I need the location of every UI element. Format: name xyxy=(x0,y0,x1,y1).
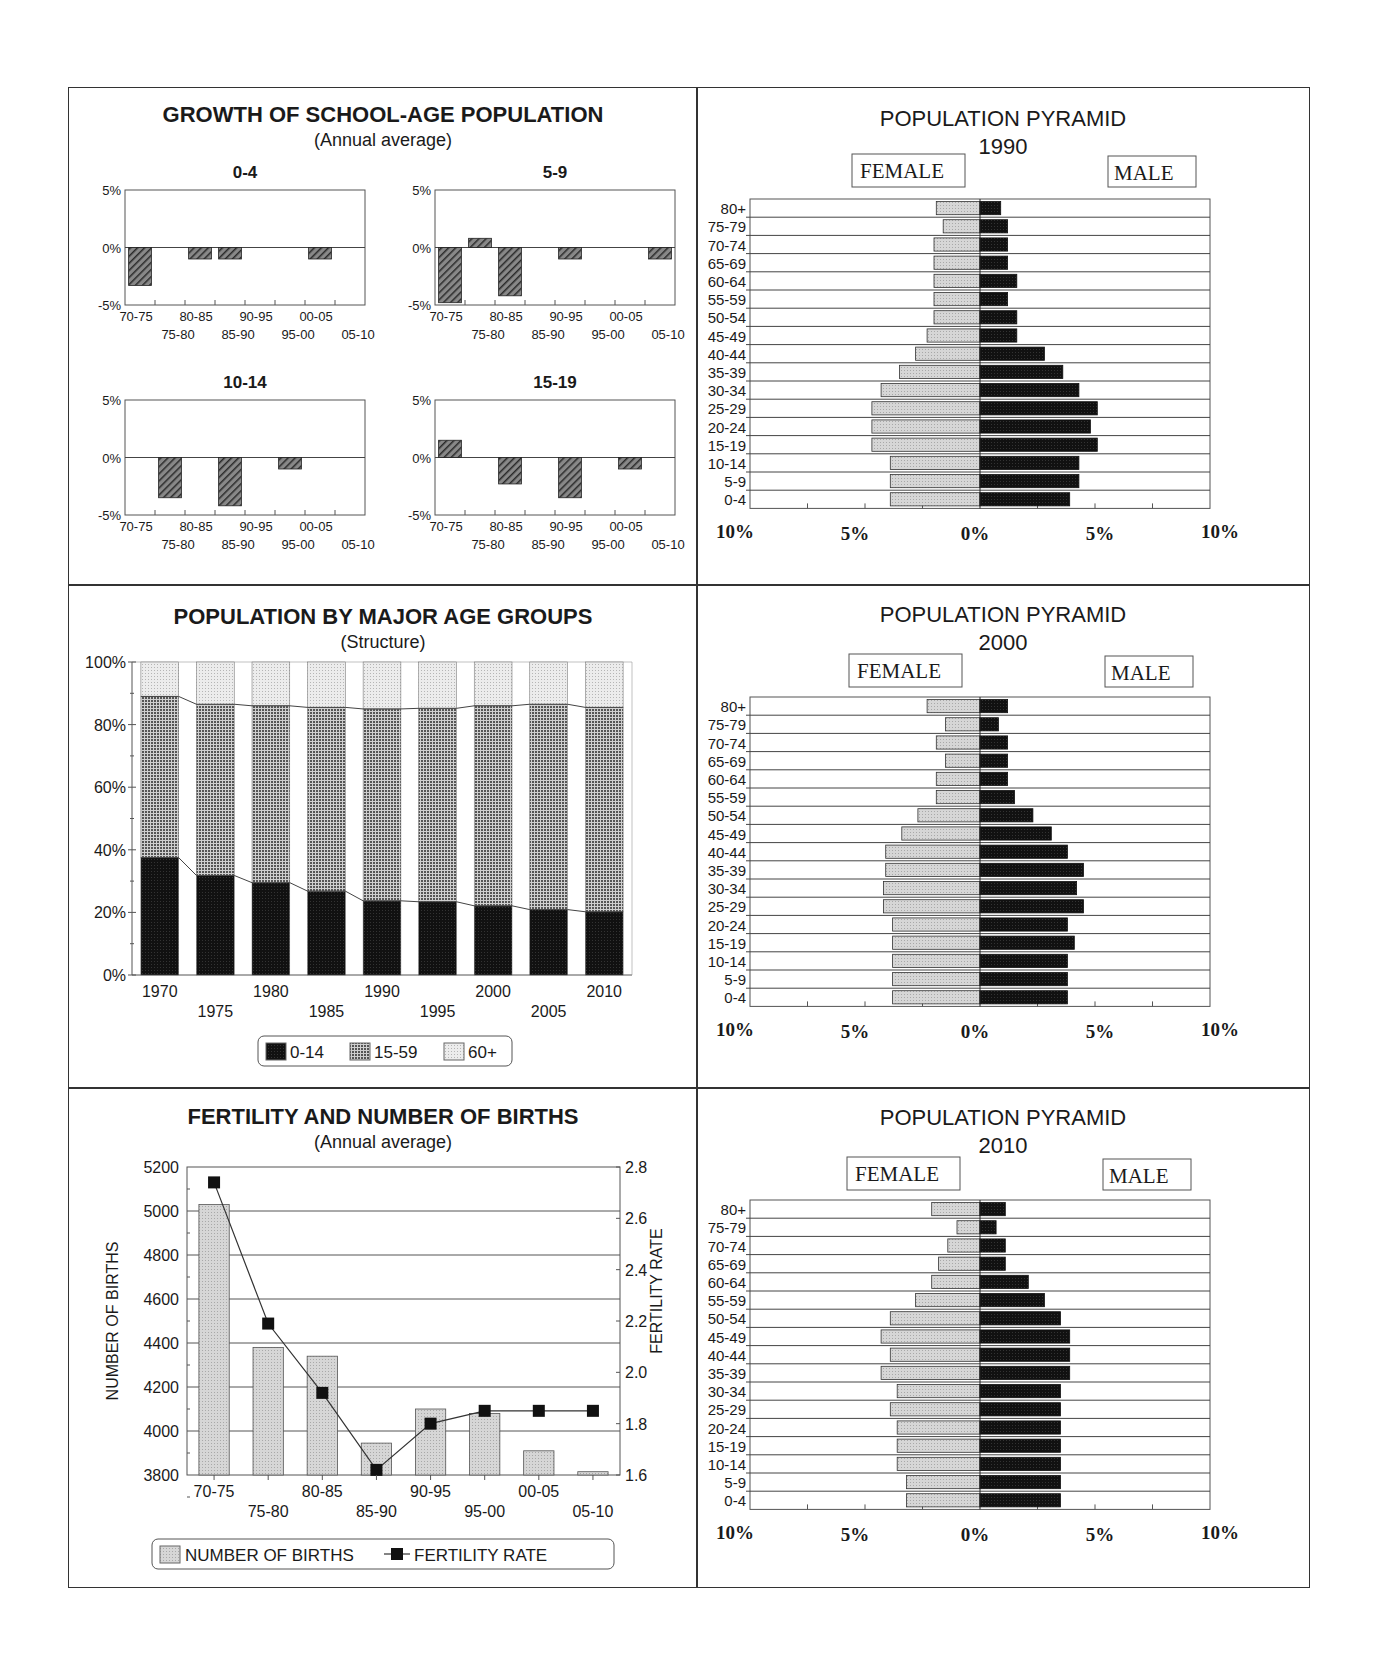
structure-bar-segment xyxy=(252,662,290,706)
female-bar xyxy=(872,402,980,415)
svg-text:-5%: -5% xyxy=(98,508,122,523)
age-group-label: 70-74 xyxy=(708,237,746,254)
structure-bar-segment xyxy=(530,910,568,975)
growth-x-tick: 95-00 xyxy=(281,537,314,552)
age-group-label: 50-54 xyxy=(708,1310,746,1327)
growth-x-tick: 00-05 xyxy=(609,309,642,324)
growth-x-tick: 70-75 xyxy=(429,309,462,324)
svg-text:40%: 40% xyxy=(94,842,126,859)
male-bar xyxy=(980,900,1084,913)
pyramid-x-tick: 5% xyxy=(841,523,870,544)
growth-x-tick: 85-90 xyxy=(221,327,254,342)
male-bar xyxy=(980,882,1077,895)
pyramid-x-tick: 10% xyxy=(716,521,754,542)
legend-swatch xyxy=(350,1043,370,1060)
legend-label: NUMBER OF BIRTHS xyxy=(185,1546,354,1565)
growth-x-tick: 00-05 xyxy=(299,519,332,534)
growth-x-tick: 85-90 xyxy=(531,327,564,342)
structure-x-tick: 1990 xyxy=(364,983,400,1000)
fertility-marker xyxy=(587,1405,599,1417)
growth-chart-title: 0-4 xyxy=(233,163,258,182)
svg-text:4600: 4600 xyxy=(143,1291,179,1308)
female-label: FEMALE xyxy=(857,659,941,683)
male-bar xyxy=(980,347,1044,360)
growth-x-tick: 75-80 xyxy=(161,327,194,342)
age-group-label: 10-14 xyxy=(708,953,746,970)
male-bar xyxy=(980,827,1051,840)
births-bar xyxy=(470,1413,500,1475)
age-group-label: 25-29 xyxy=(708,400,746,417)
pyramid-x-tick: 5% xyxy=(1086,1021,1115,1042)
male-bar xyxy=(980,791,1015,804)
structure-bar-segment xyxy=(419,902,457,975)
age-group-label: 0-4 xyxy=(724,989,746,1006)
svg-text:20%: 20% xyxy=(94,904,126,921)
growth-x-tick: 05-10 xyxy=(341,327,374,342)
female-bar xyxy=(900,365,981,378)
svg-text:4800: 4800 xyxy=(143,1247,179,1264)
male-bar xyxy=(980,845,1067,858)
growth-x-tick: 75-80 xyxy=(161,537,194,552)
fertility-x-tick: 90-95 xyxy=(410,1483,451,1500)
female-bar xyxy=(936,772,980,785)
fertility-x-tick: 80-85 xyxy=(302,1483,343,1500)
pyramid-x-tick: 10% xyxy=(1201,521,1239,542)
structure-bar-segment xyxy=(308,662,346,707)
structure-chart: 0%20%40%60%80%100%1970197519801985199019… xyxy=(70,586,696,1087)
svg-text:60%: 60% xyxy=(94,779,126,796)
svg-text:1.8: 1.8 xyxy=(625,1416,647,1433)
male-bar xyxy=(980,772,1008,785)
age-group-label: 50-54 xyxy=(708,807,746,824)
female-bar xyxy=(893,936,980,949)
age-group-label: 65-69 xyxy=(708,753,746,770)
growth-x-tick: 95-00 xyxy=(591,327,624,342)
svg-text:-5%: -5% xyxy=(408,508,432,523)
female-bar xyxy=(936,736,980,749)
female-bar xyxy=(883,882,980,895)
female-bar xyxy=(934,293,980,306)
structure-x-tick: 1995 xyxy=(420,1003,456,1020)
svg-text:4200: 4200 xyxy=(143,1379,179,1396)
legend-swatch xyxy=(444,1043,464,1060)
fertility-marker xyxy=(262,1318,274,1330)
structure-bar-segment xyxy=(141,696,179,857)
male-bar xyxy=(980,329,1017,342)
age-group-label: 60-64 xyxy=(708,273,746,290)
svg-text:1.6: 1.6 xyxy=(625,1467,647,1484)
growth-chart-title: 5-9 xyxy=(543,163,568,182)
panel-structure: POPULATION BY MAJOR AGE GROUPS (Structur… xyxy=(70,586,696,1087)
svg-text:4000: 4000 xyxy=(143,1423,179,1440)
structure-bar-segment xyxy=(530,704,568,909)
male-bar xyxy=(980,809,1033,822)
structure-x-tick: 2010 xyxy=(586,983,622,1000)
structure-bar-segment xyxy=(585,912,623,975)
svg-text:0%: 0% xyxy=(103,967,126,984)
female-bar xyxy=(893,973,980,986)
pyramid-x-tick: 10% xyxy=(1201,1019,1239,1040)
growth-x-tick: 90-95 xyxy=(549,519,582,534)
age-group-label: 75-79 xyxy=(708,218,746,235)
female-bar xyxy=(916,1294,980,1307)
growth-bar xyxy=(279,458,302,470)
growth-bar xyxy=(559,458,582,498)
svg-text:100%: 100% xyxy=(85,654,126,671)
pyramid-1990-chart: FEMALEMALE80+75-7970-7465-6960-6455-5950… xyxy=(697,88,1309,584)
female-bar xyxy=(881,384,980,397)
age-group-label: 65-69 xyxy=(708,1256,746,1273)
svg-text:5%: 5% xyxy=(412,393,431,408)
pyramid-x-tick: 0% xyxy=(961,523,990,544)
structure-bar-segment xyxy=(308,707,346,891)
growth-chart-title: 15-19 xyxy=(533,373,576,392)
growth-x-tick: 00-05 xyxy=(299,309,332,324)
structure-bar-segment xyxy=(196,704,234,875)
male-bar xyxy=(980,456,1079,469)
fertility-x-tick: 00-05 xyxy=(518,1483,559,1500)
male-label: MALE xyxy=(1114,161,1174,185)
panel-pyramid-1990: POPULATION PYRAMID 1990 FEMALEMALE80+75-… xyxy=(697,88,1309,584)
female-bar xyxy=(934,256,980,269)
births-bar xyxy=(524,1451,554,1475)
svg-text:80%: 80% xyxy=(94,717,126,734)
female-bar xyxy=(893,991,980,1004)
male-bar xyxy=(980,1439,1061,1452)
fertility-x-tick: 95-00 xyxy=(464,1503,505,1520)
